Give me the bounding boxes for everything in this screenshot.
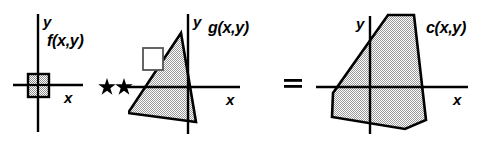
- panel-c-y-axis-label: y: [356, 16, 364, 31]
- panel-c-x-axis-label: x: [453, 92, 461, 107]
- panel-g: y x g(x,y): [128, 0, 268, 142]
- panel-g-y-axis-label: y: [193, 14, 201, 29]
- triangle-shape: [128, 33, 196, 122]
- panel-c-function-label: c(x,y): [426, 20, 466, 36]
- equals-operator: [284, 78, 306, 92]
- hexagon-shape: [332, 15, 426, 129]
- panel-f-y-axis-label: y: [43, 14, 51, 29]
- equals-icon: [284, 78, 306, 92]
- panel-g-function-label: g(x,y): [208, 20, 249, 36]
- panel-f-function-label: f(x,y): [47, 33, 83, 49]
- panel-f-x-axis-label: x: [64, 90, 72, 105]
- reference-square: [143, 48, 163, 70]
- panel-c: y x c(x,y): [316, 0, 486, 142]
- panel-f: y x f(x,y): [0, 0, 100, 142]
- panel-g-x-axis-label: x: [226, 92, 234, 107]
- convolution-figure: y x f(x,y) y x g(x,y): [0, 0, 486, 142]
